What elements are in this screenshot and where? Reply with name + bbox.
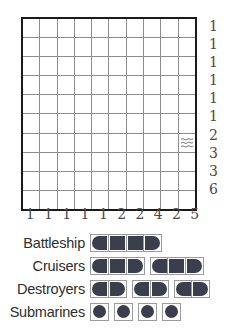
grid-cell[interactable] xyxy=(74,95,91,114)
ship-length-1[interactable] xyxy=(138,303,157,321)
grid-cell[interactable] xyxy=(144,76,161,95)
grid-cell[interactable] xyxy=(178,95,196,114)
grid-cell[interactable] xyxy=(178,76,196,95)
grid-cell[interactable] xyxy=(126,114,143,133)
grid-cell[interactable] xyxy=(144,18,161,38)
grid-cell[interactable] xyxy=(144,133,161,152)
grid-cell[interactable] xyxy=(109,171,126,190)
grid-cell[interactable] xyxy=(40,152,57,171)
grid-cell[interactable] xyxy=(74,152,91,171)
ship-length-1[interactable] xyxy=(114,303,133,321)
grid-cell[interactable] xyxy=(74,57,91,76)
grid-cell[interactable] xyxy=(74,171,91,190)
grid-cell[interactable] xyxy=(22,57,40,76)
ship-length-3[interactable] xyxy=(150,257,205,275)
grid-cell[interactable] xyxy=(57,152,74,171)
grid-cell[interactable] xyxy=(22,95,40,114)
ship-length-4[interactable] xyxy=(90,234,162,252)
grid-cell[interactable] xyxy=(22,38,40,57)
grid-cell[interactable] xyxy=(92,152,109,171)
grid-cell[interactable] xyxy=(109,57,126,76)
grid-cell[interactable] xyxy=(92,171,109,190)
grid-cell[interactable] xyxy=(161,114,178,133)
ship-length-2[interactable] xyxy=(132,280,169,298)
grid-cell[interactable] xyxy=(57,114,74,133)
grid-cell[interactable] xyxy=(144,171,161,190)
grid-cell[interactable] xyxy=(161,95,178,114)
grid-cell[interactable] xyxy=(126,18,143,38)
grid-cell[interactable] xyxy=(144,95,161,114)
ship-length-3[interactable] xyxy=(90,257,145,275)
grid-cell[interactable] xyxy=(92,95,109,114)
grid-cell[interactable] xyxy=(92,133,109,152)
grid-cell[interactable] xyxy=(126,171,143,190)
grid-cell[interactable] xyxy=(161,76,178,95)
grid-cell[interactable] xyxy=(126,95,143,114)
grid-cell[interactable] xyxy=(126,152,143,171)
grid-cell[interactable] xyxy=(40,18,57,38)
ship-length-1[interactable] xyxy=(90,303,109,321)
grid-cell[interactable] xyxy=(126,133,143,152)
grid-cell[interactable] xyxy=(22,114,40,133)
grid-cell[interactable] xyxy=(40,133,57,152)
grid-cell[interactable] xyxy=(92,57,109,76)
grid-cell[interactable] xyxy=(57,38,74,57)
grid-cell[interactable] xyxy=(161,38,178,57)
grid-cell[interactable] xyxy=(109,18,126,38)
grid-cell[interactable] xyxy=(126,76,143,95)
grid-cell[interactable] xyxy=(22,18,40,38)
grid-cell[interactable] xyxy=(57,171,74,190)
grid-cell[interactable] xyxy=(92,114,109,133)
grid-cell[interactable] xyxy=(109,76,126,95)
grid-cell[interactable] xyxy=(92,76,109,95)
grid-cell[interactable] xyxy=(74,76,91,95)
grid-cell[interactable] xyxy=(74,18,91,38)
grid-cell[interactable] xyxy=(109,38,126,57)
grid-cell[interactable] xyxy=(74,114,91,133)
grid-cell[interactable] xyxy=(178,114,196,133)
grid-cell[interactable] xyxy=(22,171,40,190)
grid-cell[interactable] xyxy=(144,38,161,57)
grid-cell[interactable] xyxy=(144,57,161,76)
grid-cell[interactable] xyxy=(178,18,196,38)
grid-cell[interactable] xyxy=(22,152,40,171)
ship-length-2[interactable] xyxy=(174,280,211,298)
grid-cell[interactable] xyxy=(57,57,74,76)
grid-cell[interactable] xyxy=(161,133,178,152)
grid-cell[interactable] xyxy=(178,152,196,171)
grid-cell[interactable] xyxy=(161,152,178,171)
grid-cell[interactable] xyxy=(57,76,74,95)
grid-cell-water[interactable] xyxy=(178,133,196,152)
grid-cell[interactable] xyxy=(57,95,74,114)
grid-cell[interactable] xyxy=(92,18,109,38)
grid-cell[interactable] xyxy=(22,76,40,95)
grid-cell[interactable] xyxy=(40,171,57,190)
grid-cell[interactable] xyxy=(57,18,74,38)
grid-cell[interactable] xyxy=(74,133,91,152)
grid-cell[interactable] xyxy=(161,57,178,76)
grid-cell[interactable] xyxy=(74,38,91,57)
grid-cell[interactable] xyxy=(40,114,57,133)
grid-cell[interactable] xyxy=(178,38,196,57)
grid-cell[interactable] xyxy=(161,18,178,38)
grid-cell[interactable] xyxy=(92,38,109,57)
grid-cell[interactable] xyxy=(40,38,57,57)
grid-cell[interactable] xyxy=(22,133,40,152)
grid-cell[interactable] xyxy=(40,76,57,95)
ship-length-1[interactable] xyxy=(162,303,181,321)
grid-cell[interactable] xyxy=(144,114,161,133)
grid-cell[interactable] xyxy=(178,57,196,76)
ship-length-2[interactable] xyxy=(90,280,127,298)
grid-cell[interactable] xyxy=(161,171,178,190)
grid-cell[interactable] xyxy=(40,95,57,114)
grid-cell[interactable] xyxy=(109,133,126,152)
grid-cell[interactable] xyxy=(178,171,196,190)
grid-cell[interactable] xyxy=(109,152,126,171)
grid-cell[interactable] xyxy=(40,57,57,76)
grid-cell[interactable] xyxy=(126,38,143,57)
puzzle-grid[interactable] xyxy=(21,17,197,211)
grid-cell[interactable] xyxy=(57,133,74,152)
grid-cell[interactable] xyxy=(109,114,126,133)
grid-cell[interactable] xyxy=(126,57,143,76)
grid-cell[interactable] xyxy=(144,152,161,171)
